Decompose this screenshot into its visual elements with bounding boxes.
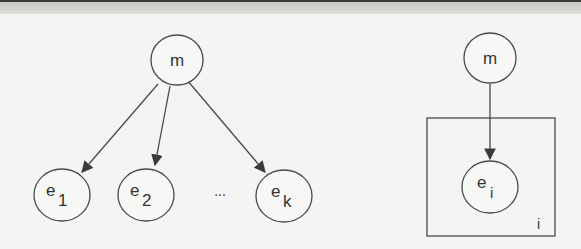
node-e2: e 2 xyxy=(118,169,174,221)
node-e2-base: e xyxy=(130,181,139,200)
diagram-canvas: m e 1 e 2 ... e k i m xyxy=(0,0,581,249)
node-ei: e i xyxy=(462,161,518,213)
edge-m-e1 xyxy=(82,84,158,172)
node-ek-sub: k xyxy=(283,192,292,211)
ellipsis: ... xyxy=(214,183,226,199)
node-e2-sub: 2 xyxy=(142,191,151,210)
right-graph: i m e i xyxy=(427,33,555,236)
node-m-right-label: m xyxy=(483,49,497,68)
node-e1-sub: 1 xyxy=(58,191,67,210)
edge-m-e2 xyxy=(155,86,170,165)
left-graph: m e 1 e 2 ... e k xyxy=(34,35,312,222)
node-e1: e 1 xyxy=(34,169,90,221)
node-m-left: m xyxy=(151,35,203,85)
node-ek-base: e xyxy=(271,182,280,201)
edge-m-ek xyxy=(187,80,265,172)
plate-label: i xyxy=(537,216,540,232)
node-ek: e k xyxy=(256,170,312,222)
node-m-right: m xyxy=(464,33,516,83)
node-ei-sub: i xyxy=(490,184,493,201)
node-ei-base: e xyxy=(477,173,486,192)
node-e1-base: e xyxy=(46,181,55,200)
node-m-left-label: m xyxy=(170,51,184,70)
